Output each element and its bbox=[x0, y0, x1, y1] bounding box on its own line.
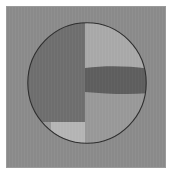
region-horizontal-band bbox=[85, 66, 147, 94]
figure-canvas bbox=[0, 0, 172, 177]
circle-svg bbox=[27, 22, 147, 144]
region-left-dark-column bbox=[27, 22, 85, 122]
circle-composition bbox=[27, 22, 147, 144]
region-upper-right-quadrant bbox=[85, 22, 147, 70]
